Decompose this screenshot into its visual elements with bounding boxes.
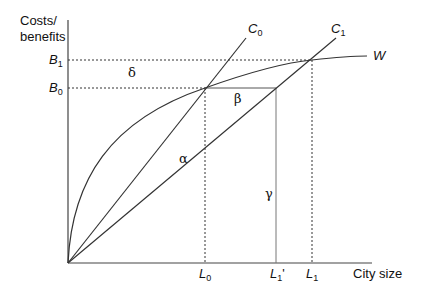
c0-label: C0 [248, 22, 262, 38]
c1-line [68, 38, 336, 263]
l1prime-label: L1' [270, 267, 285, 283]
l1-label: L1 [306, 267, 318, 283]
y-axis-label-line1: Costs/ [20, 14, 57, 27]
b1-label: B1 [49, 53, 63, 69]
x-axis-label: City size [353, 267, 402, 280]
beta-region-label: β [234, 92, 242, 105]
w-curve [68, 56, 367, 263]
delta-region-label: δ [128, 66, 136, 79]
alpha-region-label: α [179, 152, 188, 165]
w-label: W [373, 49, 385, 62]
l0-label: L0 [199, 267, 211, 283]
gamma-region-label: γ [265, 187, 273, 200]
c0-line [68, 38, 246, 263]
b0-label: B0 [49, 81, 63, 97]
c1-label: C1 [331, 22, 345, 38]
y-axis-label-line2: benefits [20, 30, 66, 43]
